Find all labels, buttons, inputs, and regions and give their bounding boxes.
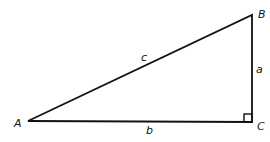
side-label-c: c (141, 51, 147, 64)
right-triangle-diagram: A B C a b c (0, 0, 270, 142)
right-angle-marker (244, 114, 252, 122)
triangle-abc (28, 15, 252, 122)
vertex-label-c: C (257, 120, 265, 133)
side-label-a: a (256, 63, 263, 76)
vertex-label-a: A (13, 117, 22, 130)
side-label-b: b (146, 124, 153, 137)
vertex-label-b: B (258, 8, 266, 21)
